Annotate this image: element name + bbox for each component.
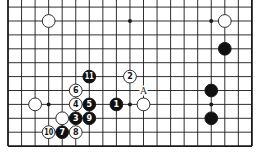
move-number: 8 <box>73 128 79 137</box>
black-stone <box>205 112 218 125</box>
white-stone <box>56 112 69 125</box>
white-stone: 2 <box>124 70 137 83</box>
move-number: 2 <box>127 72 133 81</box>
stone-icon <box>205 112 218 125</box>
move-number: 3 <box>73 114 79 123</box>
black-stone: 9 <box>83 112 96 125</box>
white-stone <box>42 15 55 28</box>
stone-icon <box>137 98 150 111</box>
white-stone <box>137 98 150 111</box>
star-point <box>47 102 51 106</box>
black-stone: 5 <box>83 98 96 111</box>
point-label: A <box>139 86 147 96</box>
star-point <box>128 19 132 23</box>
black-stone: 11 <box>83 70 96 83</box>
black-stone: 3 <box>69 112 82 125</box>
stone-icon <box>56 112 69 125</box>
black-stone: 7 <box>56 126 69 139</box>
point-labels: A <box>139 86 147 96</box>
stone-icon <box>205 84 218 97</box>
star-point <box>209 19 213 23</box>
white-stone: 6 <box>69 84 82 97</box>
move-number: 9 <box>87 114 93 123</box>
go-board: A 1126451391078 <box>0 0 259 158</box>
white-stone: 10 <box>42 126 55 139</box>
move-number: 5 <box>87 100 93 109</box>
move-number: 1 <box>114 100 120 109</box>
move-number: 6 <box>73 86 79 95</box>
white-stone <box>218 15 231 28</box>
move-number: 7 <box>59 128 65 137</box>
stone-icon <box>42 15 55 28</box>
stone-icon <box>218 42 231 55</box>
white-stone <box>29 98 42 111</box>
move-number: 10 <box>44 128 53 137</box>
black-stone <box>205 84 218 97</box>
stone-icon <box>29 98 42 111</box>
black-stone <box>218 42 231 55</box>
white-stone: 8 <box>69 126 82 139</box>
black-stone: 1 <box>110 98 123 111</box>
white-stone: 4 <box>69 98 82 111</box>
star-point <box>128 102 132 106</box>
stone-icon <box>218 15 231 28</box>
move-number: 11 <box>85 72 94 81</box>
star-point <box>209 102 213 106</box>
move-number: 4 <box>73 100 79 109</box>
